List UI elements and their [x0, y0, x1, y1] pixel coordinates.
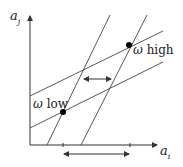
x-axis-label: ai	[160, 144, 170, 161]
x-axis-label-sub: i	[168, 152, 171, 161]
point-omega-high	[126, 42, 132, 48]
diagram: aj ai ω high ω low	[0, 0, 183, 167]
shallow-line-lower	[30, 62, 163, 128]
omega-high-text: high	[147, 43, 174, 57]
y-axis-label: aj	[10, 9, 20, 26]
omega-high-label: ω high	[133, 44, 174, 56]
y-axis-label-sub: j	[18, 17, 20, 26]
omega-symbol: ω	[133, 43, 143, 57]
x-axis-label-main: a	[160, 143, 168, 158]
diagram-canvas	[0, 0, 183, 167]
omega-low-label: ω low	[33, 98, 68, 110]
y-axis-label-main: a	[10, 8, 18, 23]
steep-line-2	[81, 15, 147, 145]
steep-line-1	[47, 15, 110, 145]
shallow-line-upper	[30, 31, 163, 96]
omega-symbol: ω	[33, 97, 43, 111]
omega-low-text: low	[47, 97, 68, 111]
